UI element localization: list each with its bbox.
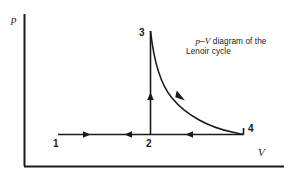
- state-point-1-label: 1: [53, 138, 59, 149]
- caption-line2: Lenoir cycle: [186, 47, 231, 56]
- pv-diagram-figure: p V 1 2 3 4 p–V diagram of theLenoir cyc…: [0, 0, 288, 179]
- state-point-3-label: 3: [139, 27, 145, 38]
- arrow-marker-bottom-mid: [125, 131, 133, 138]
- arrow-marker-vertical: [147, 93, 154, 101]
- volume-axis-label: V: [258, 146, 266, 158]
- pressure-axis-label: p: [10, 13, 17, 25]
- arrow-marker-curve: [175, 91, 185, 101]
- figure-caption: p–V diagram of theLenoir cycle: [186, 26, 267, 67]
- caption-line1-rest: diagram of the: [210, 37, 266, 46]
- state-point-4-label: 4: [248, 123, 254, 134]
- arrow-marker-bottom-right: [186, 131, 194, 138]
- state-point-2-label: 2: [146, 138, 152, 149]
- arrow-marker-bottom-left: [83, 131, 91, 138]
